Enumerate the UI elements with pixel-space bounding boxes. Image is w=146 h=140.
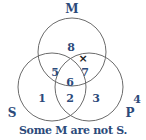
region-7: 7 (81, 66, 89, 79)
region-5: 5 (51, 66, 59, 79)
region-4: 4 (133, 93, 141, 106)
region-3: 3 (92, 92, 100, 105)
circle-s (18, 53, 86, 121)
set-label-p: P (125, 106, 134, 120)
set-label-m: M (65, 2, 78, 16)
existence-marker-x: × (78, 52, 87, 65)
region-1: 1 (38, 92, 46, 105)
region-6: 6 (66, 76, 74, 89)
venn-diagram: M S P 8 5 7 6 1 2 3 4 × (0, 0, 146, 140)
diagram-caption: Some M are not S. (0, 124, 146, 137)
region-2: 2 (66, 92, 74, 105)
set-label-s: S (8, 106, 17, 120)
region-8: 8 (67, 41, 75, 54)
